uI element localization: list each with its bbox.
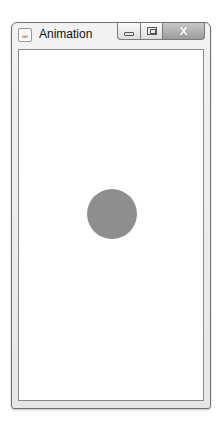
minimize-button[interactable] [117,23,141,40]
java-cup-icon[interactable]: ☕ [18,28,32,42]
app-window: ☕ Animation X [11,22,211,409]
maximize-icon [147,27,157,35]
animation-canvas [18,49,204,401]
maximize-button[interactable] [141,23,163,40]
animated-ball [87,189,137,239]
title-bar[interactable]: ☕ Animation X [12,23,210,47]
window-controls: X [117,23,205,41]
minimize-icon [124,32,134,36]
close-icon: X [179,26,187,37]
window-title: Animation [39,27,92,41]
close-button[interactable]: X [163,23,205,40]
